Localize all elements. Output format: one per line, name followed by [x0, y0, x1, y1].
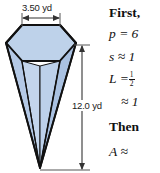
- height-dimension-label: 12.0 yd: [71, 100, 103, 111]
- height-dim-arrow-top: [79, 45, 85, 52]
- top-dimension-label: 3.50 yd: [22, 2, 52, 13]
- solution-line-slant: s ≈ 1: [109, 49, 135, 65]
- top-dim-arrow-right: [53, 15, 60, 21]
- lateral-area-expression: L =: [109, 71, 129, 86]
- solution-line-lateral-area: L =12: [109, 71, 135, 87]
- fraction-denominator: 2: [129, 80, 135, 88]
- top-dim-arrow-left: [22, 15, 29, 21]
- solution-text-panel: First, p = 6 s ≈ 1 L =12 ≈ 1 Then A ≈: [103, 0, 160, 173]
- solution-line-lateral-approx: ≈ 1: [121, 94, 139, 110]
- pyramid-diagram: [0, 0, 103, 173]
- height-dim-arrow-bottom: [79, 163, 85, 170]
- solution-line-then: Then: [109, 119, 139, 135]
- geometry-figure: 3.50 yd 12.0 yd: [0, 0, 103, 173]
- one-half-fraction: 12: [129, 71, 135, 87]
- figure-screenshot: 3.50 yd 12.0 yd First, p = 6 s ≈ 1 L =12…: [0, 0, 160, 173]
- solution-line-perimeter: p = 6: [109, 26, 138, 42]
- solution-line-area: A ≈: [109, 144, 128, 160]
- solution-line-first: First,: [109, 5, 140, 21]
